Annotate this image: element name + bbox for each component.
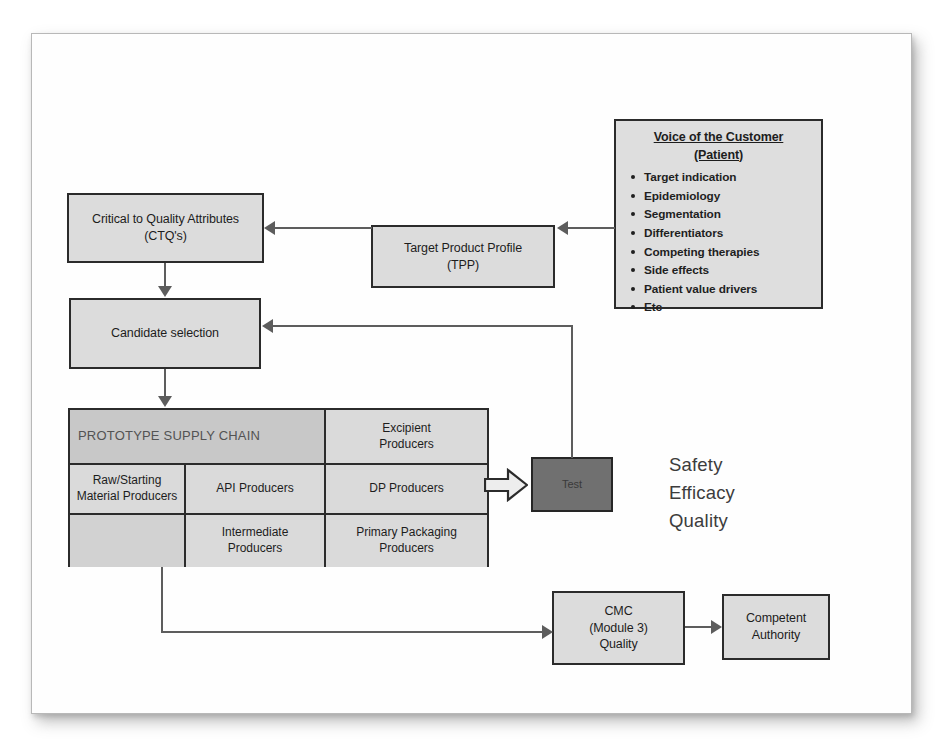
table-cell-excipient-line1: Excipient — [382, 421, 431, 435]
node-cmc-label: CMC (Module 3) Quality — [585, 603, 652, 654]
node-tpp-line1: Target Product Profile — [404, 241, 522, 255]
outcomes-list: Safety Efficacy Quality — [669, 451, 735, 535]
node-authority-line2: Authority — [752, 628, 800, 642]
connector-test-feedback-arrowhead — [262, 319, 273, 333]
table-cell-excipient-producers: ExcipientProducers — [326, 410, 487, 465]
node-authority-line1: Competent — [746, 611, 806, 625]
node-voc-title-line1: Voice of the Customer — [654, 130, 784, 144]
list-item: Competing therapies — [644, 243, 815, 262]
connector-ctq-to-candidate-arrowhead — [158, 286, 172, 297]
node-voc-title: Voice of the Customer (Patient) — [622, 129, 815, 164]
table-cell-intermediate-line2: Producers — [228, 541, 283, 555]
node-ctq-line1: Critical to Quality Attributes — [92, 212, 239, 226]
connector-dp-to-test-block-arrow — [484, 468, 528, 502]
table-cell-excipient-line2: Producers — [379, 437, 434, 451]
list-item: Target indication — [644, 168, 815, 187]
node-voice-of-the-customer[interactable]: Voice of the Customer (Patient) Target i… — [614, 119, 823, 309]
list-item: Differentiators — [644, 224, 815, 243]
list-item: Etc — [644, 298, 815, 317]
node-ctq-label: Critical to Quality Attributes(CTQ's) — [88, 211, 243, 245]
node-ctq-line2: (CTQ's) — [144, 229, 187, 243]
connector-test-feedback-vertical — [571, 325, 573, 458]
connector-tpp-to-ctq-arrowhead — [264, 221, 275, 235]
table-cell-api-producers: API Producers — [186, 465, 326, 515]
connector-tpp-to-ctq-line — [275, 227, 372, 229]
table-header-prototype-supply-chain: PROTOTYPE SUPPLY CHAIN — [70, 410, 326, 465]
node-test[interactable]: Test — [531, 457, 613, 512]
scanned-page: Critical to Quality Attributes(CTQ's) Ca… — [31, 33, 912, 714]
table-cell-packaging-line1: Primary Packaging — [356, 525, 457, 539]
node-competent-authority[interactable]: Competent Authority — [722, 594, 830, 660]
table-cell-raw-line1: Raw/Starting — [93, 473, 162, 487]
node-tpp-line2: (TPP) — [447, 258, 479, 272]
table-cell-primary-packaging-producers: Primary PackagingProducers — [326, 515, 487, 567]
node-authority-label: Competent Authority — [742, 610, 810, 644]
list-item: Patient value drivers — [644, 280, 815, 299]
connector-supplychain-to-cmc-vertical — [161, 567, 163, 633]
node-critical-to-quality-attributes[interactable]: Critical to Quality Attributes(CTQ's) — [67, 193, 264, 263]
table-cell-intermediate-producers: IntermediateProducers — [186, 515, 326, 567]
node-cmc-line2: (Module 3) — [589, 621, 648, 635]
connector-ctq-to-candidate-line — [164, 263, 166, 287]
connector-voc-to-tpp-arrowhead — [557, 221, 568, 235]
connector-candidate-to-supplychain-arrowhead — [158, 396, 172, 407]
node-test-label: Test — [558, 477, 586, 492]
outcome-safety: Safety — [669, 451, 735, 479]
node-voc-title-line2: (Patient) — [694, 148, 743, 162]
outcome-quality: Quality — [669, 507, 735, 535]
list-item: Segmentation — [644, 205, 815, 224]
node-candidate-selection-label: Candidate selection — [107, 325, 223, 342]
list-item: Epidemiology — [644, 187, 815, 206]
outcome-efficacy: Efficacy — [669, 479, 735, 507]
node-voc-list: Target indication Epidemiology Segmentat… — [622, 168, 815, 317]
table-cell-dp-producers: DP Producers — [326, 465, 487, 515]
node-cmc-line1: CMC — [604, 604, 632, 618]
node-tpp-label: Target Product Profile(TPP) — [400, 240, 526, 274]
connector-candidate-to-supplychain-line — [164, 369, 166, 397]
node-cmc-module-3-quality[interactable]: CMC (Module 3) Quality — [552, 591, 685, 665]
table-cell-intermediate-line1: Intermediate — [222, 525, 289, 539]
connector-supplychain-to-cmc-horizontal — [161, 631, 543, 633]
node-cmc-line3: Quality — [599, 637, 637, 651]
prototype-supply-chain-table[interactable]: PROTOTYPE SUPPLY CHAIN ExcipientProducer… — [68, 408, 489, 567]
process-flow-diagram: Critical to Quality Attributes(CTQ's) Ca… — [32, 34, 911, 713]
table-cell-raw-line2: Material Producers — [77, 489, 178, 503]
table-cell-packaging-line2: Producers — [379, 541, 434, 555]
list-item: Side effects — [644, 261, 815, 280]
connector-test-feedback-horizontal — [273, 325, 573, 327]
connector-supplychain-to-cmc-arrowhead — [542, 625, 553, 639]
table-cell-raw-starting-material-producers: Raw/StartingMaterial Producers — [70, 465, 186, 515]
node-candidate-selection[interactable]: Candidate selection — [69, 298, 261, 369]
connector-voc-to-tpp-line — [568, 227, 615, 229]
connector-cmc-to-authority-arrowhead — [711, 620, 722, 634]
connector-cmc-to-authority-line — [685, 626, 712, 628]
table-cell-blank — [70, 515, 186, 567]
node-target-product-profile[interactable]: Target Product Profile(TPP) — [371, 225, 555, 288]
